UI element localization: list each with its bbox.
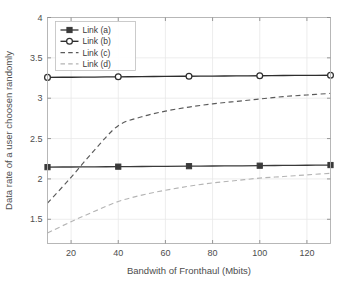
series-1	[45, 162, 333, 169]
series-marker	[186, 164, 191, 169]
series-marker	[115, 74, 121, 80]
series-line	[48, 93, 331, 203]
series-marker	[257, 73, 263, 79]
y-tick-label: 2.5	[30, 134, 43, 144]
x-tick-label: 20	[66, 248, 76, 258]
y-tick-label: 3	[37, 93, 42, 103]
legend-label: Link (d)	[83, 59, 112, 69]
x-tick-label: 120	[299, 248, 314, 258]
chart-figure: 20406080100120 1.522.533.54 Bandwith of …	[0, 0, 348, 293]
y-tick-label: 4	[37, 13, 42, 23]
x-tick-label: 60	[160, 248, 170, 258]
x-axis-tick-labels: 20406080100120	[66, 248, 314, 258]
legend-label: Link (c)	[83, 48, 111, 58]
x-tick-label: 80	[208, 248, 218, 258]
series-marker	[116, 164, 121, 169]
series-line	[48, 173, 331, 233]
series-4	[48, 173, 331, 233]
x-tick-label: 100	[252, 248, 267, 258]
chart-legend: Link (a)Link (b)Link (c)Link (d)	[56, 22, 136, 71]
x-axis-title: Bandwith of Fronthaul (Mbits)	[127, 265, 251, 276]
series-2	[45, 72, 334, 80]
x-tick-label: 40	[113, 248, 123, 258]
data-series-layer	[45, 72, 334, 233]
series-3	[48, 93, 331, 203]
y-tick-label: 2	[37, 174, 42, 184]
legend-label: Link (a)	[83, 25, 112, 35]
y-axis-tick-labels: 1.522.533.54	[30, 13, 43, 225]
y-tick-label: 1.5	[30, 214, 43, 224]
legend-sample-marker	[67, 27, 72, 32]
y-tick-label: 3.5	[30, 53, 43, 63]
legend-sample-marker	[67, 38, 73, 44]
y-axis-title: Data rate of a user choosen randomly	[3, 51, 14, 210]
series-marker	[186, 73, 192, 79]
line-chart: 20406080100120 1.522.533.54 Bandwith of …	[0, 0, 348, 293]
legend-label: Link (b)	[83, 36, 112, 46]
series-marker	[257, 163, 262, 168]
